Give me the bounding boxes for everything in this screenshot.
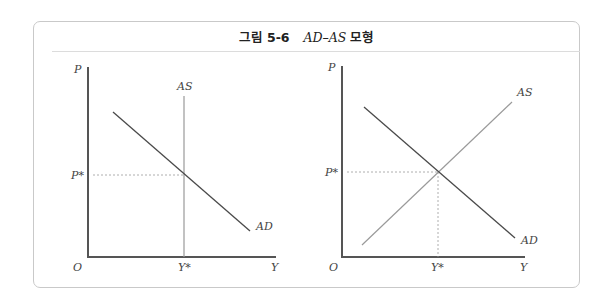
right-y-label: Y [520, 261, 529, 274]
diagram-canvas: P AS AD P* O Y* Y P AS AD P* O Y* Y [0, 0, 609, 306]
right-as-curve [362, 102, 512, 245]
left-ad-curve [113, 112, 250, 231]
right-y-star-label: Y* [431, 261, 444, 274]
right-ad-curve [364, 107, 515, 238]
right-origin-label: O [329, 261, 338, 274]
left-y-label: Y [271, 261, 280, 274]
right-chart: P AS AD P* O Y* Y [324, 61, 538, 274]
left-ad-label: AD [255, 220, 273, 233]
right-p-label: P [327, 61, 336, 74]
right-p-star-label: P* [324, 166, 338, 179]
left-chart: P AS AD P* O Y* Y [70, 63, 280, 274]
left-p-label: P [73, 63, 82, 76]
left-p-star-label: P* [70, 169, 84, 182]
left-origin-label: O [73, 261, 82, 274]
left-y-star-label: Y* [178, 261, 191, 274]
right-ad-label: AD [520, 234, 538, 247]
left-as-label: AS [176, 80, 193, 93]
right-as-label: AS [516, 86, 533, 99]
